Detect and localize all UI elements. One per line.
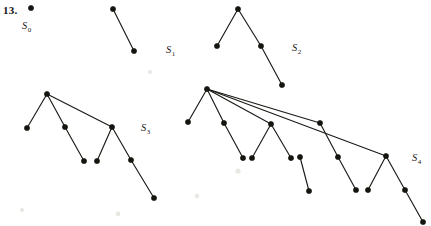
tree-edge — [217, 9, 238, 46]
tree-edge — [27, 94, 47, 128]
label-s0-subscript: 0 — [28, 26, 32, 34]
tree-node — [151, 195, 156, 200]
tree-node — [420, 219, 425, 224]
tree-node — [249, 155, 254, 160]
tree-node — [288, 155, 293, 160]
tree-edge — [47, 94, 112, 127]
label-s4: S4 — [412, 152, 422, 166]
tree-edge — [224, 123, 243, 158]
label-s1-subscript: 1 — [172, 50, 176, 58]
tree-edge — [320, 123, 338, 157]
tree-edge — [338, 157, 356, 190]
tree-s4-nodes — [185, 86, 425, 224]
tree-edge — [207, 89, 271, 124]
tree-edge — [65, 127, 84, 161]
tree-edge — [386, 156, 405, 190]
tree-s0-nodes — [28, 5, 33, 10]
tree-node — [94, 158, 99, 163]
tree-s1-edges — [113, 9, 134, 51]
tree-edge — [97, 127, 112, 161]
tree-node — [204, 86, 209, 91]
tree-edge — [271, 124, 291, 158]
tree-node — [383, 153, 388, 158]
label-s3: S3 — [141, 122, 151, 136]
tree-node — [62, 124, 67, 129]
tree-node — [221, 120, 226, 125]
tree-edge — [188, 89, 207, 122]
tree-node — [185, 119, 190, 124]
tree-s2-nodes — [214, 6, 284, 87]
tree-node — [365, 187, 370, 192]
tree-node — [110, 6, 115, 11]
tree-node — [268, 121, 273, 126]
tree-s3-edges — [27, 94, 154, 198]
label-s3-subscript: 3 — [147, 128, 151, 136]
tree-node — [24, 125, 29, 130]
tree-edge — [252, 124, 271, 158]
tree-node — [353, 187, 358, 192]
tree-s3-nodes — [24, 91, 156, 200]
label-s4-subscript: 4 — [418, 158, 422, 166]
tree-edge — [368, 156, 386, 190]
binomial-trees-figure: S0S1S2S3S4 — [0, 0, 431, 226]
tree-node — [214, 43, 219, 48]
tree-node — [306, 188, 311, 193]
tree-edge — [207, 89, 320, 123]
label-s0: S0 — [22, 20, 32, 34]
tree-node — [131, 48, 136, 53]
tree-s2-edges — [217, 9, 282, 85]
tree-node — [258, 43, 263, 48]
tree-node — [28, 5, 33, 10]
tree-node — [235, 6, 240, 11]
tree-edge — [112, 127, 131, 160]
tree-node — [44, 91, 49, 96]
tree-node — [81, 158, 86, 163]
tree-node — [297, 154, 302, 159]
tree-edge — [300, 157, 309, 191]
tree-node — [335, 154, 340, 159]
label-s2: S2 — [292, 42, 302, 56]
tree-node — [402, 187, 407, 192]
tree-edge — [238, 9, 261, 46]
tree-node — [279, 82, 284, 87]
tree-edge — [405, 190, 423, 222]
tree-labels-layer: S0S1S2S3S4 — [22, 20, 422, 166]
tree-edge — [261, 46, 282, 85]
label-s1: S1 — [166, 44, 176, 58]
tree-nodes-layer — [24, 5, 425, 224]
label-s2-subscript: 2 — [298, 48, 302, 56]
tree-node — [317, 120, 322, 125]
tree-edge — [207, 89, 386, 156]
tree-node — [109, 124, 114, 129]
paper-specks — [20, 70, 241, 216]
tree-edge — [113, 9, 134, 51]
tree-node — [128, 157, 133, 162]
tree-edges-layer — [27, 9, 423, 222]
tree-edge — [131, 160, 154, 198]
tree-node — [240, 155, 245, 160]
